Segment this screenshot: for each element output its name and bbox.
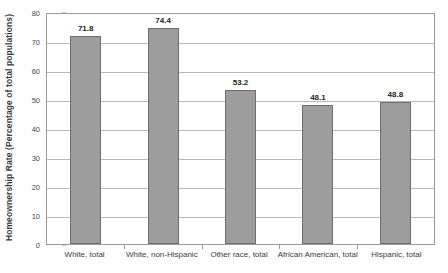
bar-slot: 48.1	[279, 14, 356, 244]
y-tick-label: 20	[18, 183, 40, 192]
y-tick-label: 40	[18, 125, 40, 134]
x-category-label: Hispanic, total	[358, 250, 435, 266]
bar	[225, 90, 256, 244]
bar-chart-figure: Homeownership Rate (Percentage of total …	[0, 0, 448, 273]
y-tick-label: 60	[18, 67, 40, 76]
bar-value-label: 53.2	[233, 78, 249, 87]
y-tick-label: 50	[18, 96, 40, 105]
bar	[148, 28, 179, 244]
bar-series: 71.874.453.248.148.8	[47, 14, 434, 244]
y-axis-ticks: 01020304050607080	[18, 13, 40, 245]
bar-value-label: 48.1	[310, 93, 326, 102]
x-category-label: White, total	[46, 250, 123, 266]
x-category-label: Other race, total	[200, 250, 277, 266]
bar	[70, 36, 101, 244]
x-tick-mark	[124, 245, 125, 249]
y-tick-label: 80	[18, 9, 40, 18]
y-tick-label: 0	[18, 241, 40, 250]
bar-slot: 71.8	[47, 14, 124, 244]
bar-value-label: 71.8	[78, 24, 94, 33]
bar-slot: 74.4	[124, 14, 201, 244]
y-tick-label: 70	[18, 38, 40, 47]
bar-slot: 53.2	[202, 14, 279, 244]
x-tick-mark	[357, 245, 358, 249]
bar-value-label: 48.8	[388, 90, 404, 99]
x-category-label: White, non-Hispanic	[123, 250, 200, 266]
bar-value-label: 74.4	[155, 16, 171, 25]
x-tick-mark	[202, 245, 203, 249]
bar-slot: 48.8	[357, 14, 434, 244]
x-category-label: African American, total	[278, 250, 358, 266]
bar	[302, 105, 333, 244]
bar	[380, 102, 411, 244]
y-tick-label: 30	[18, 154, 40, 163]
x-tick-mark	[279, 245, 280, 249]
y-axis-title: Homeownership Rate (Percentage of total …	[2, 5, 16, 250]
plot-area: 71.874.453.248.148.8	[46, 13, 435, 245]
y-tick-label: 10	[18, 212, 40, 221]
x-axis-labels: White, totalWhite, non-HispanicOther rac…	[46, 250, 435, 266]
